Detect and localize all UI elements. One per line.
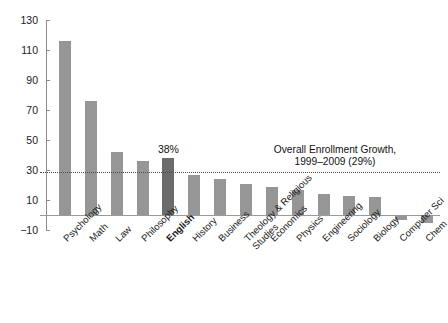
bar <box>188 175 200 216</box>
y-tick-mark <box>46 110 50 111</box>
y-tick-mark <box>46 20 50 21</box>
y-tick-mark <box>46 230 50 231</box>
bar <box>85 101 97 215</box>
y-tick-label: 70 <box>0 105 43 115</box>
bar <box>214 179 226 215</box>
bar <box>59 41 71 215</box>
x-tick-label: Theology & ReligiousStudies <box>242 172 322 252</box>
annotation-line-2: 1999–2009 (29%) <box>235 156 435 168</box>
bar <box>137 161 149 215</box>
annotation-line-1: Overall Enrollment Growth, <box>235 144 435 156</box>
y-tick-label: 130 <box>0 15 43 25</box>
y-tick-label: 10 <box>0 195 43 205</box>
y-tick-mark <box>46 80 50 81</box>
bar-chart: −101030507090110130 38% PsychologyMathLa… <box>0 0 448 323</box>
bar <box>318 194 330 215</box>
x-tick-label-line: Math <box>87 221 110 244</box>
y-tick-label: 110 <box>0 45 43 55</box>
y-tick-label: 50 <box>0 135 43 145</box>
y-tick-label: 30 <box>0 165 43 175</box>
y-tick-label: −10 <box>0 225 43 235</box>
x-tick-label-line: Law <box>113 224 133 244</box>
reference-line-annotation: Overall Enrollment Growth, 1999–2009 (29… <box>235 144 435 168</box>
bar <box>111 152 123 215</box>
y-tick-mark <box>46 50 50 51</box>
y-tick-label: 90 <box>0 75 43 85</box>
x-tick-label: Math <box>87 221 110 244</box>
y-tick-mark <box>46 140 50 141</box>
highlight-value-label: 38% <box>148 143 188 155</box>
reference-line <box>40 172 440 173</box>
x-tick-label: Law <box>113 224 133 244</box>
y-tick-mark <box>46 200 50 201</box>
